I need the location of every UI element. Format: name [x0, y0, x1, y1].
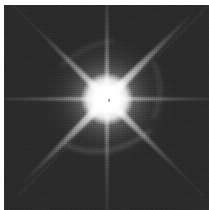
- spike-east: [107, 97, 209, 101]
- spike-south: [105, 99, 109, 210]
- dead-pixel-artifact: [108, 99, 110, 102]
- diffraction-spikes: [4, 5, 209, 210]
- star-field-canvas: [4, 5, 209, 210]
- vignette-overlay: [4, 5, 209, 210]
- image-viewport: [0, 0, 209, 210]
- spike-north: [105, 5, 109, 99]
- spike-west: [4, 97, 107, 101]
- star-halo: [37, 31, 177, 167]
- halo-ghost-arcs: [62, 41, 160, 151]
- star-core: [80, 72, 133, 125]
- sky-background: [4, 5, 209, 210]
- astronomical-image-frame: [4, 5, 209, 210]
- spike-southeast: [104, 96, 197, 189]
- spike-northeast: [104, 5, 204, 102]
- sensor-noise-overlay: [4, 5, 209, 210]
- spike-edge-streaks: [4, 5, 209, 210]
- spike-northwest: [25, 17, 110, 102]
- spike-southwest: [10, 96, 110, 196]
